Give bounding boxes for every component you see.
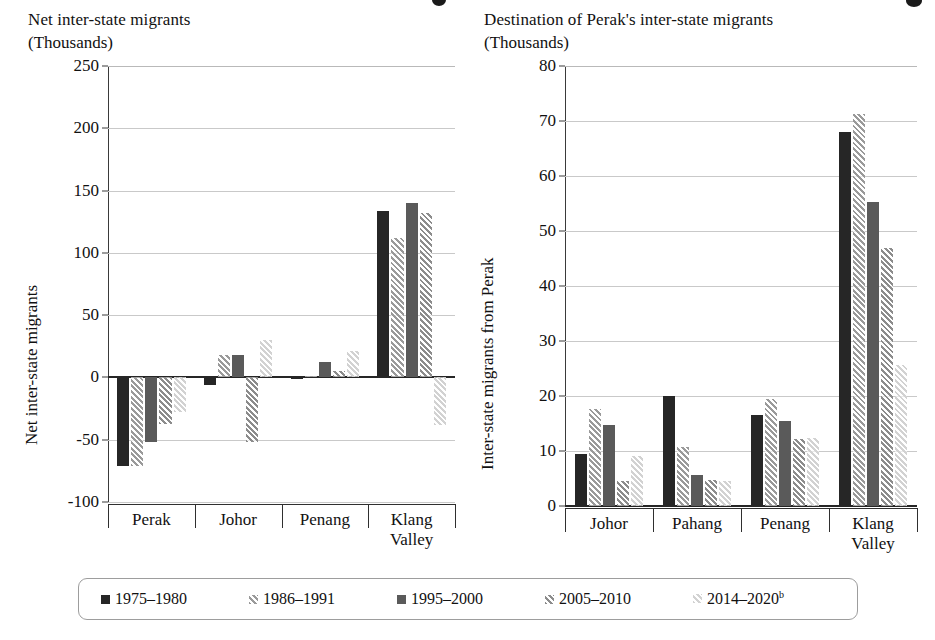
bar-group [741, 66, 829, 506]
bar [631, 456, 643, 506]
category-label: Perak [108, 510, 195, 530]
plot-area-right: 80706050403020100 [565, 66, 917, 506]
bar [434, 377, 446, 424]
legend-swatch [249, 595, 258, 604]
y-tick-label: 0 [91, 367, 100, 387]
legend-item: 1975–1980 [101, 590, 187, 608]
bar [377, 211, 389, 378]
y-tick-label: 30 [539, 331, 556, 351]
legend-label: 1995–2000 [411, 590, 483, 608]
bar [575, 454, 587, 506]
bars-layer [565, 66, 917, 506]
bar [765, 399, 777, 506]
bar-group [565, 66, 653, 506]
y-tick-label: 60 [539, 166, 556, 186]
y-tick-label: 100 [74, 243, 100, 263]
chart-legend: 1975–19801986–19911995–20002005–20102014… [78, 578, 858, 620]
legend-label: 1975–1980 [115, 590, 187, 608]
bar [159, 377, 171, 423]
bar [705, 480, 717, 506]
bar [807, 438, 819, 506]
legend-item: 2014–2020b [693, 589, 784, 608]
legend-swatch [693, 594, 702, 603]
bar [420, 213, 432, 377]
bars-layer [108, 66, 455, 502]
chart-panel-net-inter-state-migrants: Net inter-state migrants (Thousands) Net… [0, 0, 470, 565]
legend-swatch [397, 595, 406, 604]
bar [145, 377, 157, 442]
bar-group [108, 66, 195, 502]
bar [895, 365, 907, 506]
bar [691, 475, 703, 506]
bar [218, 355, 230, 377]
bar [246, 377, 258, 442]
y-tick-label: -100 [68, 492, 99, 512]
y-axis-label-right: Inter-state migrants from Perak [478, 257, 498, 470]
category-label: Penang [741, 514, 829, 534]
chart-units-right: (Thousands) [484, 31, 569, 54]
chart-units-left: (Thousands) [28, 31, 113, 54]
plot-area-left: 250200150100500-50-100 [108, 66, 455, 502]
category-label: Johor [195, 510, 282, 530]
bar [232, 355, 244, 377]
y-tick-label: -50 [76, 430, 99, 450]
bar-group [829, 66, 917, 506]
y-tick-label: 0 [548, 496, 557, 516]
bar [853, 114, 865, 506]
legend-swatch [545, 595, 554, 604]
bar [305, 376, 317, 377]
category-label: Pahang [653, 514, 741, 534]
bar [391, 238, 403, 378]
bar [603, 425, 615, 506]
y-tick-label: 40 [539, 276, 556, 296]
legend-label: 1986–1991 [263, 590, 335, 608]
category-separator [455, 504, 456, 528]
y-tick-label: 150 [74, 181, 100, 201]
bar-group [282, 66, 369, 502]
bar [663, 396, 675, 506]
y-tick-label: 20 [539, 386, 556, 406]
bar [881, 248, 893, 507]
chart-title-left: Net inter-state migrants [28, 8, 191, 31]
category-label: Penang [282, 510, 369, 530]
y-tick-label: 200 [74, 118, 100, 138]
legend-label: 2014–2020b [707, 589, 784, 608]
legend-item: 1986–1991 [249, 590, 335, 608]
bar [260, 340, 272, 377]
bar [677, 447, 689, 506]
bar-group [368, 66, 455, 502]
legend-item: 1995–2000 [397, 590, 483, 608]
legend-label: 2005–2010 [559, 590, 631, 608]
category-label: Klang Valley [829, 514, 917, 554]
gridline [108, 502, 455, 503]
bar [867, 202, 879, 506]
bar [131, 377, 143, 465]
bar [793, 439, 805, 506]
bar [174, 377, 186, 412]
y-tick-label: 50 [539, 221, 556, 241]
bar [333, 371, 345, 377]
bar [751, 415, 763, 506]
bar [291, 377, 303, 378]
y-axis-label-left: Net inter-state migrants [22, 285, 42, 445]
bar [719, 481, 731, 506]
bar [347, 351, 359, 377]
bar [406, 203, 418, 377]
y-tick-label: 80 [539, 56, 556, 76]
bar [319, 362, 331, 377]
legend-label-superscript: b [779, 589, 784, 600]
bar-group [195, 66, 282, 502]
bar [617, 481, 629, 506]
chart-title-right: Destination of Perak's inter-state migra… [484, 8, 773, 31]
y-tick-label: 50 [82, 305, 99, 325]
bar [589, 409, 601, 506]
y-tick-label: 250 [74, 56, 100, 76]
category-label: Johor [565, 514, 653, 534]
category-separator [917, 508, 918, 532]
chart-panel-destination-of-peraks-inter-state-migrants: Destination of Perak's inter-state migra… [465, 0, 935, 565]
bar [117, 377, 129, 465]
bar-group [653, 66, 741, 506]
legend-items: 1975–19801986–19911995–20002005–20102014… [79, 579, 857, 619]
legend-item: 2005–2010 [545, 590, 631, 608]
bar [204, 377, 216, 384]
